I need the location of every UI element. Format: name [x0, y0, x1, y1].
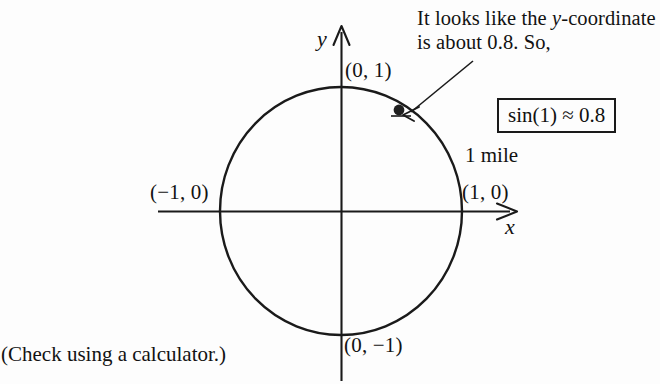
leader-line [411, 61, 473, 112]
annotation-note: It looks like the y-coordinate is about … [417, 6, 656, 54]
y-axis-label: y [317, 26, 327, 52]
point-label-right: (1, 0) [462, 180, 509, 205]
point-label-left: (−1, 0) [150, 180, 209, 205]
radius-label: 1 mile [465, 143, 518, 168]
footnote-text: (Check using a calculator.) [1, 342, 226, 367]
result-box: sin(1) ≈ 0.8 [497, 98, 616, 133]
marked-point-dot [394, 105, 405, 116]
x-axis-label: x [505, 214, 515, 240]
annotation-line1-prefix: It looks like the [417, 7, 552, 29]
unit-circle-figure: (0, 1) (−1, 0) (1, 0) (0, −1) y x 1 mile… [0, 0, 660, 384]
annotation-line1-italic-y: y [552, 7, 561, 29]
point-label-bottom: (0, −1) [344, 333, 403, 358]
point-label-top: (0, 1) [345, 58, 392, 83]
annotation-line-2: is about 0.8. So, [417, 31, 551, 53]
figure-canvas [0, 0, 660, 384]
annotation-line-1: It looks like the y-coordinate [417, 7, 656, 29]
annotation-line1-suffix: -coordinate [561, 7, 655, 29]
